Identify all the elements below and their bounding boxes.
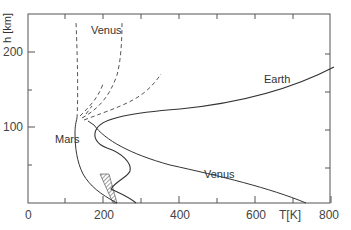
x-axis-label: T[K] (279, 208, 301, 222)
temperature-altitude-chart (0, 0, 351, 230)
label-venus-lower: Venus (204, 168, 235, 180)
label-venus-upper: Venus (91, 24, 122, 36)
earth-curve (95, 67, 334, 203)
x-tick-0: 0 (25, 208, 32, 222)
y-ticks (28, 52, 330, 168)
venus-dashed-curves (76, 22, 161, 120)
x-tick-200: 200 (94, 208, 114, 222)
y-tick-100: 100 (3, 120, 23, 134)
plot-frame (28, 14, 330, 203)
y-tick-200: 200 (3, 45, 23, 59)
x-tick-800: 800 (319, 208, 339, 222)
x-tick-400: 400 (170, 208, 190, 222)
x-tick-600: 600 (246, 208, 266, 222)
venus-curve (88, 121, 306, 203)
y-axis-label: h [km] (1, 13, 13, 43)
label-earth: Earth (264, 73, 290, 85)
label-mars: Mars (55, 133, 79, 145)
